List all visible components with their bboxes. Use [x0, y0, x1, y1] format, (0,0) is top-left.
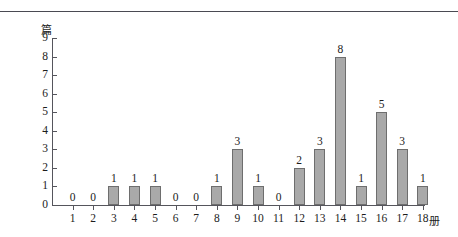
bar-value-label-5: 1 [143, 173, 167, 184]
y-tick-5 [53, 112, 57, 113]
bar-4 [129, 186, 140, 205]
bar-12 [294, 168, 305, 205]
x-tick-16 [382, 206, 383, 210]
bar-13 [314, 149, 325, 205]
bar-value-label-14: 8 [328, 44, 352, 55]
x-tick-5 [155, 206, 156, 210]
plot-area: 篇 册 0123456789 1234567891011121314151617… [0, 0, 458, 237]
y-tick-label-5: 5 [26, 106, 48, 117]
x-tick-label-18: 18 [411, 212, 435, 224]
bar-value-label-11: 0 [267, 192, 291, 203]
bar-5 [150, 186, 161, 205]
bar-8 [211, 186, 222, 205]
y-tick-4 [53, 131, 57, 132]
bar-9 [232, 149, 243, 205]
y-tick-label-2: 2 [26, 162, 48, 173]
bar-value-label-7: 0 [184, 192, 208, 203]
bar-16 [376, 112, 387, 205]
x-tick-8 [217, 206, 218, 210]
y-tick-9 [53, 38, 57, 39]
x-tick-15 [361, 206, 362, 210]
bar-value-label-8: 1 [205, 173, 229, 184]
y-tick-8 [53, 57, 57, 58]
y-tick-label-7: 7 [26, 69, 48, 80]
bar-18 [417, 186, 428, 205]
bar-value-label-17: 3 [390, 136, 414, 147]
bar-value-label-9: 3 [225, 136, 249, 147]
x-axis-line [52, 205, 425, 206]
x-tick-6 [176, 206, 177, 210]
y-tick-3 [53, 149, 57, 150]
y-tick-label-1: 1 [26, 180, 48, 191]
y-tick-label-0: 0 [26, 199, 48, 210]
y-axis-line [52, 38, 53, 206]
y-tick-0 [53, 205, 57, 206]
bar-value-label-12: 2 [287, 155, 311, 166]
x-tick-12 [299, 206, 300, 210]
y-tick-label-4: 4 [26, 125, 48, 136]
x-tick-13 [320, 206, 321, 210]
y-tick-7 [53, 75, 57, 76]
bar-3 [108, 186, 119, 205]
bar-value-label-18: 1 [411, 173, 435, 184]
x-tick-14 [340, 206, 341, 210]
bar-14 [335, 57, 346, 205]
x-tick-18 [423, 206, 424, 210]
bar-15 [356, 186, 367, 205]
bar-value-label-13: 3 [308, 136, 332, 147]
x-tick-1 [73, 206, 74, 210]
bar-10 [253, 186, 264, 205]
x-tick-11 [279, 206, 280, 210]
bar-chart: 篇 册 0123456789 1234567891011121314151617… [0, 0, 458, 237]
bar-17 [397, 149, 408, 205]
x-tick-10 [258, 206, 259, 210]
x-tick-2 [93, 206, 94, 210]
y-tick-label-6: 6 [26, 88, 48, 99]
y-tick-label-3: 3 [26, 143, 48, 154]
y-tick-1 [53, 186, 57, 187]
bar-value-label-16: 5 [370, 99, 394, 110]
x-tick-7 [196, 206, 197, 210]
x-tick-9 [237, 206, 238, 210]
y-tick-label-9: 9 [26, 32, 48, 43]
y-tick-6 [53, 94, 57, 95]
bar-value-label-10: 1 [246, 173, 270, 184]
x-tick-17 [402, 206, 403, 210]
x-tick-3 [114, 206, 115, 210]
y-tick-label-8: 8 [26, 51, 48, 62]
bar-value-label-15: 1 [349, 173, 373, 184]
bar-value-label-2: 0 [81, 192, 105, 203]
x-tick-4 [134, 206, 135, 210]
y-tick-2 [53, 168, 57, 169]
